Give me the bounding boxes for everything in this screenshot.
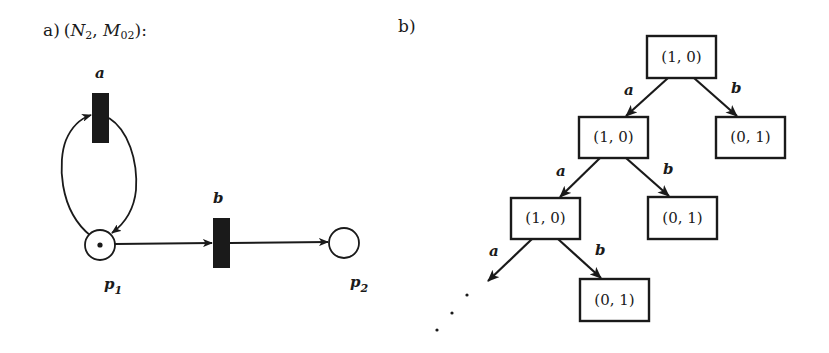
transition-b-label: b [213, 189, 224, 207]
node-marking: (1, 0) [661, 48, 701, 66]
edge-a-aa [560, 158, 600, 197]
node-marking: (1, 0) [525, 209, 565, 227]
panel-a-title: a)(N2, M02): [43, 20, 147, 42]
tree-node-root[interactable]: (1, 0) [647, 36, 716, 78]
arc-p1-to-b [115, 243, 212, 244]
place-p2[interactable] [329, 228, 359, 258]
node-marking: (0, 1) [730, 128, 770, 146]
panel-b: b) (1, 0) (1, 0) (0, 1) (1, 0) (0, 1) (0… [398, 16, 785, 332]
tree-node-aab[interactable]: (0, 1) [580, 279, 649, 321]
token-icon [97, 242, 102, 247]
transition-b[interactable] [213, 218, 230, 268]
tree-node-a[interactable]: (1, 0) [579, 117, 648, 158]
edge-label-b: b [663, 160, 674, 178]
tree-node-ab[interactable]: (0, 1) [648, 197, 717, 239]
place-p2-label: p2 [350, 273, 369, 295]
transition-a[interactable] [92, 93, 109, 143]
transition-a-label: a [95, 64, 105, 82]
panel-b-label: b) [398, 16, 416, 36]
edge-label-a: a [489, 242, 499, 260]
tree-node-b[interactable]: (0, 1) [716, 117, 785, 158]
node-marking: (0, 1) [662, 209, 702, 227]
edge-label-a: a [624, 81, 634, 99]
figure-canvas: a)(N2, M02): a p1 b p2 b) (1, 0) [0, 0, 829, 353]
panel-a: a)(N2, M02): a p1 b p2 [43, 20, 369, 297]
place-p1-label: p1 [104, 275, 122, 297]
node-marking: (0, 1) [594, 291, 634, 309]
node-marking: (1, 0) [593, 128, 633, 146]
tree-node-aa[interactable]: (1, 0) [511, 198, 580, 239]
arc-a-to-p1 [109, 118, 136, 233]
arc-b-to-p2 [230, 242, 328, 243]
edge-label-a: a [556, 162, 566, 180]
arc-p1-to-a [62, 115, 91, 236]
continuation-ellipsis-icon [435, 293, 468, 331]
edge-label-b: b [731, 79, 742, 97]
edge-label-b: b [595, 241, 606, 259]
